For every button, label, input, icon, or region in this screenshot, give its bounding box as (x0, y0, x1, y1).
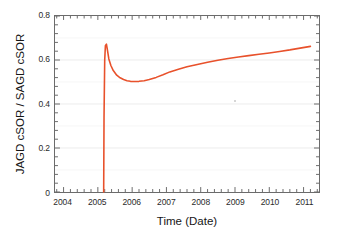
x-tick-label: 2011 (289, 197, 319, 207)
y-tick-label: 0.4 (24, 99, 50, 109)
x-tick-label: 2010 (255, 197, 285, 207)
data-series-curve (55, 16, 319, 192)
chart-figure: JAGD cSOR / SAGD cSOR 00.20.40.60.8 2004… (0, 0, 338, 240)
x-tick-label: 2009 (220, 197, 250, 207)
x-tick-label: 2004 (48, 197, 78, 207)
dust-speck-artifact (234, 100, 236, 102)
x-tick-label: 2006 (117, 197, 147, 207)
x-tick-label: 2005 (82, 197, 112, 207)
y-tick-label: 0.8 (24, 10, 50, 20)
series-path-0 (104, 44, 311, 192)
plot-area (54, 15, 320, 193)
x-axis-title: Time (Date) (54, 215, 320, 227)
x-tick-label: 2008 (186, 197, 216, 207)
y-tick-label: 0 (24, 188, 50, 198)
y-tick-label: 0.6 (24, 54, 50, 64)
x-tick-label: 2007 (151, 197, 181, 207)
y-tick-label: 0.2 (24, 143, 50, 153)
